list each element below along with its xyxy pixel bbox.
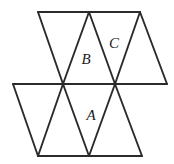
figure-background: [0, 0, 174, 164]
triangle-net-canvas: ABC: [0, 0, 174, 164]
region-label-b: B: [81, 51, 90, 67]
region-label-c: C: [109, 35, 120, 51]
region-label-a: A: [85, 107, 96, 123]
triangle-net-figure: ABC: [0, 0, 174, 164]
